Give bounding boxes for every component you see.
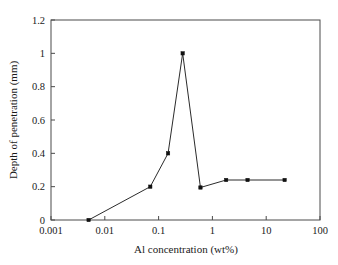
data-series-layer	[87, 52, 286, 222]
x-axis-title: Al concentration (wt%)	[134, 243, 238, 256]
x-tick-label: 0.1	[152, 225, 165, 236]
y-tick-label: 0.6	[32, 115, 45, 126]
data-point-marker	[166, 152, 169, 155]
data-point-marker	[87, 218, 90, 221]
x-tick-label: 100	[312, 225, 328, 236]
data-point-marker	[181, 52, 184, 55]
x-tick-label: 0.001	[39, 225, 63, 236]
data-point-marker	[246, 178, 249, 181]
data-point-marker	[199, 186, 202, 189]
y-tick-label: 0.2	[32, 181, 45, 192]
y-axis-tick-labels: 00.20.40.60.811.2	[32, 15, 46, 226]
y-axis-title: Depth of penetration (mm)	[7, 61, 20, 180]
data-point-marker	[224, 178, 227, 181]
y-tick-label: 1	[40, 48, 45, 59]
y-axis-ticks	[51, 20, 55, 220]
plot-frame	[51, 20, 320, 220]
data-point-marker	[283, 178, 286, 181]
line-chart: 00.20.40.60.811.2 0.0010.010.1110100 Al …	[0, 0, 338, 265]
y-tick-label: 1.2	[32, 15, 45, 26]
x-tick-label: 0.01	[96, 225, 114, 236]
plot-border	[51, 20, 320, 220]
chart-figure: 00.20.40.60.811.2 0.0010.010.1110100 Al …	[0, 0, 338, 265]
y-tick-label: 0.8	[32, 81, 45, 92]
x-axis-tick-labels: 0.0010.010.1110100	[39, 225, 328, 236]
series-line	[89, 53, 285, 220]
x-tick-label: 10	[261, 225, 272, 236]
data-point-marker	[149, 185, 152, 188]
y-tick-label: 0	[40, 215, 45, 226]
x-tick-label: 1	[210, 225, 215, 236]
y-tick-label: 0.4	[32, 148, 46, 159]
